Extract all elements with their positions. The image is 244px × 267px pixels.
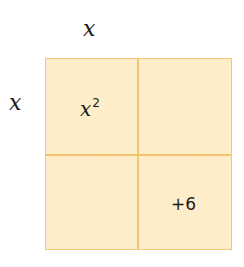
cell-top-left-term: x2 <box>80 97 100 119</box>
side-dimension-label: x <box>9 92 21 114</box>
cell-bottom-right-term: +6 <box>171 196 196 213</box>
x-squared-base: x <box>80 97 91 121</box>
top-dimension-label: x <box>83 18 95 40</box>
area-model-grid: x2 +6 <box>45 58 232 250</box>
horizontal-divider <box>46 154 231 156</box>
x-squared-exponent: 2 <box>92 96 100 110</box>
